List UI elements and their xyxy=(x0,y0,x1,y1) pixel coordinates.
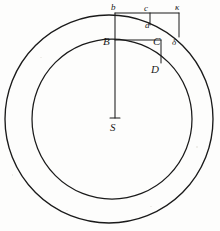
geometric-diagram: b c κ d B C δ D S xyxy=(0,0,220,231)
point-label-B: B xyxy=(103,36,110,47)
paper-speckle xyxy=(40,57,42,58)
diagram-canvas xyxy=(0,0,220,231)
paper-speckle xyxy=(12,174,13,176)
point-label-c: c xyxy=(144,4,148,13)
paper-speckle xyxy=(150,206,152,207)
point-label-d: d xyxy=(145,21,150,30)
point-label-b: b xyxy=(111,3,116,12)
point-label-kappa: κ xyxy=(175,3,179,12)
paper-speckle xyxy=(66,210,68,211)
point-label-D: D xyxy=(151,64,159,75)
point-label-delta: δ xyxy=(172,38,176,47)
point-label-S: S xyxy=(110,122,116,133)
inner-circle xyxy=(32,39,192,199)
paper-speckle xyxy=(196,146,198,148)
point-label-C: C xyxy=(153,36,160,47)
